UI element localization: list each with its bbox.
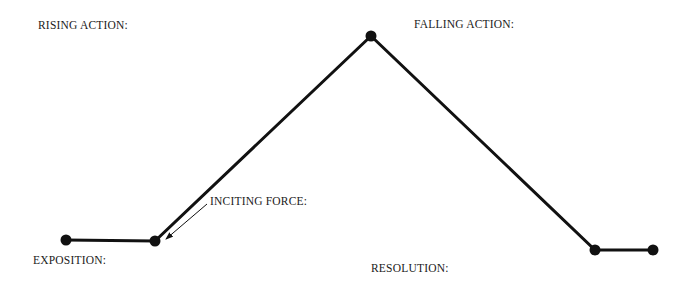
rising-action-label: RISING ACTION: <box>38 19 128 31</box>
resolution-label: RESOLUTION: <box>371 262 449 274</box>
inciting-force-label: INCITING FORCE: <box>210 195 307 207</box>
falling-action-label: FALLING ACTION: <box>414 18 514 30</box>
plot-line <box>66 36 653 250</box>
exposition-start-dot <box>61 235 72 246</box>
resolution-start-dot <box>590 245 601 256</box>
exposition-label: EXPOSITION: <box>33 254 106 266</box>
climax-dot <box>366 31 377 42</box>
plot-structure-diagram: RISING ACTION: FALLING ACTION: INCITING … <box>0 0 694 284</box>
resolution-end-dot <box>648 245 659 256</box>
inciting-force-dot <box>150 236 161 247</box>
